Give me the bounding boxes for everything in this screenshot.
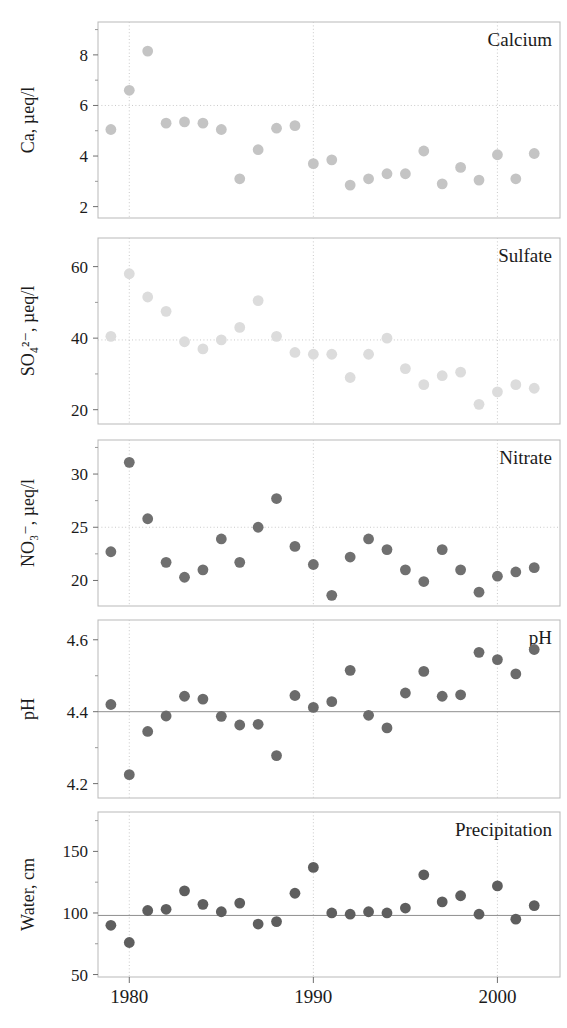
data-point [455, 162, 466, 173]
panel-title: Sulfate [498, 245, 552, 266]
data-point [216, 534, 227, 545]
data-point [529, 148, 540, 159]
data-point [474, 399, 485, 410]
data-point [142, 905, 153, 916]
data-point [437, 178, 448, 189]
y-tick-label: 8 [80, 46, 89, 65]
y-axis-label: NO₃⁻, µeq/l [18, 479, 38, 567]
data-point [345, 552, 356, 563]
data-point [290, 541, 301, 552]
data-point [142, 46, 153, 57]
data-point [290, 120, 301, 131]
data-point [400, 564, 411, 575]
data-point [418, 146, 429, 157]
data-point [198, 899, 209, 910]
data-point [437, 896, 448, 907]
panel-frame [98, 440, 560, 606]
data-point [161, 904, 172, 915]
data-point [253, 295, 264, 306]
y-tick-label: 50 [71, 966, 88, 985]
data-point [382, 722, 393, 733]
data-point [271, 750, 282, 761]
data-point [216, 335, 227, 346]
data-point [124, 769, 135, 780]
panel-calcium: 2468Ca, µeq/lCalcium [18, 22, 560, 218]
data-point [216, 124, 227, 135]
data-point [437, 370, 448, 381]
panel-title: Precipitation [455, 819, 553, 840]
data-point [124, 937, 135, 948]
data-point [363, 906, 374, 917]
data-point [234, 173, 245, 184]
y-tick-label: 25 [71, 518, 88, 537]
data-point [198, 343, 209, 354]
panel-frame [98, 238, 560, 424]
y-tick-label: 4.6 [67, 631, 88, 650]
data-point [198, 564, 209, 575]
y-axis-label: Ca, µeq/l [18, 87, 38, 153]
panel-precipitation: 50100150Water, cmPrecipitation [18, 812, 560, 985]
data-point [345, 909, 356, 920]
data-point [418, 869, 429, 880]
data-point [179, 691, 190, 702]
data-point [234, 720, 245, 731]
y-tick-label: 2 [80, 198, 89, 217]
data-point [437, 691, 448, 702]
data-point [161, 306, 172, 317]
y-axis-label: Water, cm [18, 858, 38, 931]
data-point [308, 158, 319, 169]
data-point [455, 367, 466, 378]
y-tick-label: 4 [80, 147, 89, 166]
y-tick-label: 4.4 [67, 703, 89, 722]
data-point [161, 557, 172, 568]
data-point [400, 903, 411, 914]
data-point [382, 544, 393, 555]
data-point [400, 688, 411, 699]
data-point [474, 587, 485, 598]
data-point [455, 564, 466, 575]
panel-sulfate: 204060SO₄²⁻, µeq/lSulfate [18, 238, 560, 424]
data-point [290, 347, 301, 358]
data-point [253, 919, 264, 930]
data-point [105, 699, 116, 710]
y-tick-label: 20 [71, 401, 88, 420]
data-point [308, 862, 319, 873]
data-point [492, 654, 503, 665]
data-point [234, 322, 245, 333]
data-point [418, 666, 429, 677]
data-point [105, 546, 116, 557]
data-point [253, 719, 264, 730]
data-point [510, 914, 521, 925]
data-point [290, 690, 301, 701]
panel-frame [98, 620, 560, 798]
data-point [474, 175, 485, 186]
data-point [345, 372, 356, 383]
data-point [492, 571, 503, 582]
y-tick-label: 20 [71, 571, 88, 590]
data-point [308, 349, 319, 360]
y-tick-label: 100 [63, 904, 89, 923]
data-point [290, 888, 301, 899]
panel-nitrate: 202530NO₃⁻, µeq/lNitrate [18, 440, 560, 606]
data-point [529, 383, 540, 394]
data-point [326, 908, 337, 919]
data-point [418, 379, 429, 390]
data-point [179, 885, 190, 896]
data-point [326, 590, 337, 601]
data-series [105, 862, 539, 948]
y-tick-label: 6 [80, 96, 89, 115]
data-point [437, 544, 448, 555]
data-point [418, 576, 429, 587]
data-point [382, 333, 393, 344]
data-point [492, 149, 503, 160]
y-axis-label: SO₄²⁻, µeq/l [18, 286, 38, 377]
data-point [161, 118, 172, 129]
data-point [105, 920, 116, 931]
data-point [326, 696, 337, 707]
data-point [400, 363, 411, 374]
x-axis: 198019902000 [110, 977, 516, 1007]
data-point [124, 457, 135, 468]
y-tick-label: 60 [71, 258, 88, 277]
x-tick-label: 1990 [294, 986, 332, 1007]
data-point [326, 349, 337, 360]
